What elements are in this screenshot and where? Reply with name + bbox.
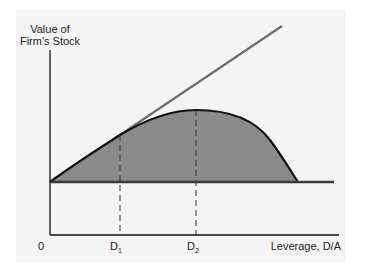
origin-label: 0 bbox=[38, 240, 44, 252]
d1-label: D1 bbox=[110, 240, 122, 254]
y-axis-label-line2: Firm's Stock bbox=[20, 35, 81, 47]
leverage-value-chart: Value of Firm's Stock 0 D1 D2 Leverage, … bbox=[0, 0, 365, 273]
x-axis-label: Leverage, D/A bbox=[271, 240, 342, 252]
shaded-value-area bbox=[50, 110, 298, 182]
y-axis-label-line1: Value of bbox=[30, 23, 70, 35]
d2-label: D2 bbox=[187, 240, 199, 254]
